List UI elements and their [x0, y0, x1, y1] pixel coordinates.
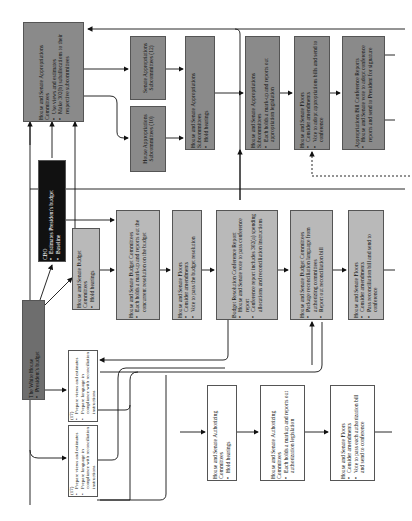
approp-committees-box: House and Senate Appropriations Committe… [23, 22, 84, 122]
bullet: Each holds a mark-up and reports out the… [135, 212, 148, 312]
cbo-box: CBO Estimates President's budget Baselin… [38, 160, 66, 262]
budget-floors-box: House and Senate Floors Consider amendme… [172, 210, 202, 320]
bullet: Make 302(b) suballocations to their resp… [57, 24, 70, 114]
box-title: House and Senate Appropriations Subcommi… [250, 38, 263, 148]
box-title: Senate Authorizing Committees (17) [68, 352, 75, 420]
bullet: Hold hearings [225, 387, 231, 473]
approp-sub-markup-box: House and Senate Appropriations Subcommi… [245, 36, 280, 150]
bullet: Vote to adopt appropriations bills and s… [312, 38, 325, 142]
bullet: President's budget [34, 302, 40, 392]
budget-hearings-box: House and Senate Budget Committees Hold … [72, 228, 100, 310]
bullet: Each holds a mark-up and reports out app… [263, 38, 276, 142]
box-title: House and Senate Budget Committees [76, 230, 89, 308]
bullet: Prepare language in compliance with reco… [80, 352, 97, 414]
box-title: House and Senate Appropriations Subcommi… [190, 38, 203, 148]
box-title: The White House [27, 302, 33, 398]
bullet: Each holds a markup and reports out auth… [283, 387, 296, 473]
bullet: Draft authorization legislation [97, 427, 98, 489]
bullet: Report out reconciliation bill [318, 212, 324, 312]
box-title: Senate Appropriations Subcommittees (12) [142, 38, 155, 98]
house-approp-subcommittees-box: House Appropriations Subcommittees (10) [130, 106, 166, 172]
bullet: Draft authorization legislation [97, 352, 98, 414]
house-authorizing-box: House Authorizing Committees (17) Prepar… [68, 425, 98, 497]
box-title: House and Senate Floors [340, 387, 346, 479]
senate-authorizing-box: Senate Authorizing Committees (17) Prepa… [68, 350, 98, 422]
box-title: House and Senate Appropriations Committe… [37, 24, 50, 120]
approp-sub-hearings-box: House and Senate Appropriations Subcommi… [185, 36, 215, 150]
senate-approp-subcommittees-box: Senate Appropriations Subcommittees (12) [130, 36, 166, 100]
budget-markup-box: House and Senate Budget Committees Each … [116, 210, 160, 320]
white-house-box: The White House President's budget [22, 300, 45, 400]
auth-markup-box: House and Senate Authorizing Committees … [260, 385, 305, 481]
box-title: House and Senate Budget Committees [299, 212, 305, 318]
budget-conference-box: Budget Resolution Conference Report Hous… [216, 210, 278, 320]
bullet: Conference report includes 302(a) spendi… [250, 212, 263, 312]
bullet: Pass reconciliation bill and send to con… [366, 212, 379, 312]
box-title: House and Senate Authorizing Committees [270, 387, 283, 479]
bullet: House and Senate vote to pass conference… [237, 212, 250, 312]
approp-floors-box: House and Senate Floors Consider amendme… [294, 36, 330, 150]
bullet: Use views and estimates [50, 24, 56, 114]
approp-conference-box: Appropriations Bill Conference Reports H… [342, 36, 385, 150]
auth-floors-box: House and Senate Floors Consider amendme… [330, 385, 375, 481]
bullet: Prepare language in compliance with reco… [80, 427, 97, 489]
auth-hearings-box: House and Senate Authorizing Committees … [207, 385, 237, 481]
reconciliation-floors-box: House and Senate Floors Consider amendme… [348, 210, 384, 320]
bullet: Vote to pass each authorization bill and… [353, 387, 366, 473]
box-title: House Authorizing Committees (17) [68, 427, 75, 495]
bullet: Baseline [55, 162, 61, 254]
bullet: Vote to pass the budget resolution [190, 212, 196, 312]
bullet: Hold hearings [203, 38, 209, 142]
bullet: Hold hearings [89, 230, 95, 302]
box-title: Appropriations Bill Conference Reports [354, 38, 360, 148]
box-title: House and Senate Authorizing Committees [212, 387, 225, 479]
bullet: House and Senate vote to adopt conferenc… [360, 38, 373, 142]
box-title: House Appropriations Subcommittees (10) [142, 108, 155, 170]
reconciliation-committees-box: House and Senate Budget Committees Packa… [290, 210, 333, 320]
bullet: Package reconciliation language from aut… [305, 212, 318, 312]
bullet: Consider amendments [346, 387, 352, 473]
